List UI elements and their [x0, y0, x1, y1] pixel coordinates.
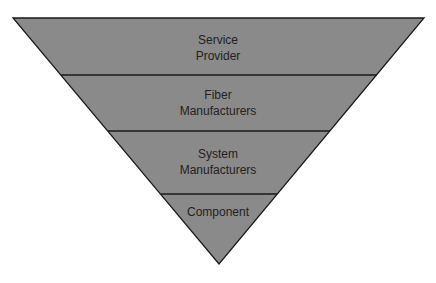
label-line: Fiber	[0, 87, 436, 103]
inverted-pyramid-diagram: Service Provider Fiber Manufacturers Sys…	[0, 0, 436, 283]
label-line: System	[0, 146, 436, 162]
label-fiber-manufacturers: Fiber Manufacturers	[0, 87, 436, 119]
label-line: Provider	[0, 48, 436, 64]
label-system-manufacturers: System Manufacturers	[0, 146, 436, 178]
label-service-provider: Service Provider	[0, 32, 436, 64]
label-line: Service	[0, 32, 436, 48]
label-line: Component	[0, 204, 436, 220]
label-line: Manufacturers	[0, 162, 436, 178]
label-component: Component	[0, 204, 436, 220]
label-line: Manufacturers	[0, 103, 436, 119]
